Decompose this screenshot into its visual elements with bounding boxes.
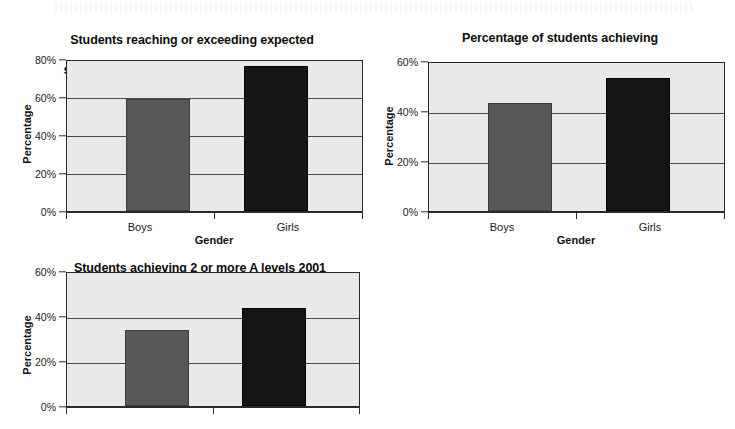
figure-page: { "page": { "kind": "scanned-figure-page…: [0, 0, 735, 429]
chart-1-plot-area: [66, 60, 363, 212]
chart-3-ytick-mark-60: [59, 271, 66, 272]
chart-1-xaxis-title: Gender: [195, 234, 234, 246]
chart-2-xtick-boys: Boys: [490, 221, 514, 233]
chart-1-title-line1: Students reaching or exceeding expected: [70, 33, 313, 47]
chart-1-ytick-mark-60: [59, 97, 66, 98]
chart-3-gridline-40: [67, 318, 359, 319]
chart-3-xtick-mark-middle: [213, 407, 214, 414]
chart-3-bar-boys: [125, 330, 189, 406]
chart-2-xaxis-title: Gender: [557, 234, 596, 246]
chart-1-ytick-mark-80: [59, 59, 66, 60]
chart-3-bar-girls: [242, 308, 306, 406]
chart-1-xtick-boys: Boys: [128, 221, 152, 233]
chart-2-title-line1: Percentage of students achieving: [462, 31, 658, 45]
chart-2-xtick-mark-middle: [576, 212, 577, 219]
chart-3-ytick-60: 60%: [22, 266, 56, 278]
chart-3-gridline-20: [67, 363, 359, 364]
chart-2-ytick-mark-0: [421, 211, 428, 212]
chart-2-ytick-0: 0%: [384, 206, 418, 218]
chart-2-bar-girls: [606, 78, 670, 211]
chart-3-ytick-mark-0: [59, 406, 66, 407]
chart-3-plot-area: [66, 272, 360, 407]
chart-2-plot-area: [428, 62, 725, 212]
chart-1-gridline-40: [67, 136, 362, 137]
scan-artifact: [55, 3, 695, 12]
chart-1-bar-boys: [126, 99, 190, 211]
chart-1-xtick-girls: Girls: [277, 221, 300, 233]
chart-1-xtick-mark-middle: [214, 212, 215, 219]
chart-1-gridline-60: [67, 98, 362, 99]
chart-2-gridline-40: [429, 113, 724, 114]
chart-3-yaxis-title: Percentage: [21, 300, 33, 390]
chart-3-xtick-mark-left: [66, 407, 67, 414]
chart-2-ytick-60: 60%: [384, 56, 418, 68]
chart-2-ytick-mark-40: [421, 111, 428, 112]
chart-2-bar-boys: [488, 103, 552, 211]
chart-1-ytick-mark-0: [59, 211, 66, 212]
chart-1-yaxis-title: Percentage: [21, 89, 33, 179]
chart-1-xtick-mark-left: [66, 212, 67, 219]
chart-3-xtick-mark-right: [359, 407, 360, 414]
chart-1-xtick-mark-right: [362, 212, 363, 219]
chart-1-bar-girls: [244, 66, 308, 211]
chart-1-ytick-80: 80%: [22, 54, 56, 66]
chart-3-ytick-mark-20: [59, 361, 66, 362]
chart-2-ytick-mark-20: [421, 161, 428, 162]
chart-2-yaxis-title: Percentage: [383, 91, 395, 181]
chart-1-ytick-mark-40: [59, 135, 66, 136]
chart-2-xtick-mark-right: [724, 212, 725, 219]
chart-3-ytick-0: 0%: [22, 401, 56, 413]
chart-1-ytick-0: 0%: [22, 206, 56, 218]
chart-2-gridline-20: [429, 163, 724, 164]
chart-1-gridline-20: [67, 174, 362, 175]
chart-2-ytick-mark-60: [421, 61, 428, 62]
chart-2-xtick-girls: Girls: [639, 221, 662, 233]
chart-2-xtick-mark-left: [428, 212, 429, 219]
chart-1-ytick-mark-20: [59, 173, 66, 174]
chart-3-ytick-mark-40: [59, 316, 66, 317]
